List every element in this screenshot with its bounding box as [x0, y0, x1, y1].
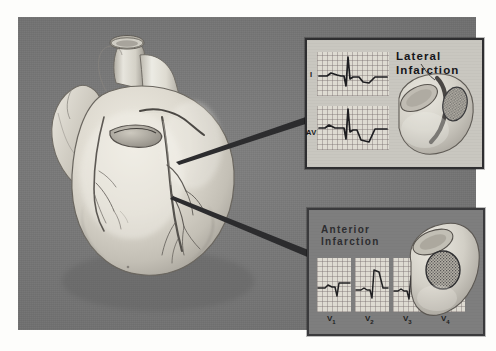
- anterior-infarction-title: Anterior Infarction: [321, 224, 380, 248]
- ventricle-lateral-infarct-diagram: [385, 62, 477, 162]
- ecg-lead-label-V1: V1: [327, 314, 336, 325]
- ecg-strip-lead-V1: [317, 258, 351, 312]
- infarction-figure: Lateral Infarction I AVL: [0, 0, 496, 351]
- v-subscript: 2: [370, 319, 373, 325]
- ecg-strip-lead-V2: [355, 258, 389, 312]
- infarct-region: [426, 251, 460, 289]
- ecg-strip-lead-AVL: [317, 106, 389, 150]
- ecg-trace-V1: [317, 258, 351, 312]
- pointer-to-anterior-inset: [168, 195, 328, 265]
- ecg-trace-I: [317, 52, 389, 96]
- lateral-infarction-inset: Lateral Infarction I AVL: [305, 38, 484, 169]
- anterior-infarction-inset: Anterior Infarction: [307, 208, 485, 336]
- illustration-plate: Lateral Infarction I AVL: [18, 17, 476, 330]
- v-subscript: 1: [332, 319, 335, 325]
- ventricle-anterior-infarct-diagram: [401, 216, 481, 324]
- ecg-strip-lead-I: [317, 52, 389, 96]
- ecg-trace-V2: [355, 258, 389, 312]
- ecg-lead-label-V2: V2: [365, 314, 374, 325]
- ecg-trace-AVL: [317, 106, 389, 150]
- heart-illustration: [32, 25, 280, 325]
- pointer-to-lateral-inset: [173, 109, 323, 169]
- ecg-lead-label-I: I: [310, 70, 312, 79]
